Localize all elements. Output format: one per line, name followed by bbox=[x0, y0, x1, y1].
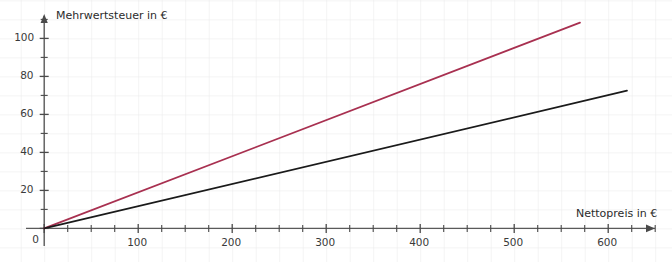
y-tick-label: 80 bbox=[20, 69, 33, 81]
y-axis-title: Mehrwertsteuer in € bbox=[56, 9, 167, 22]
line-chart bbox=[0, 0, 672, 262]
y-tick-label: 40 bbox=[20, 145, 33, 157]
x-tick-label: 200 bbox=[221, 236, 241, 248]
x-axis-title: Nettopreis in € bbox=[576, 207, 657, 220]
x-tick-label: 400 bbox=[409, 236, 429, 248]
x-tick-label: 100 bbox=[127, 236, 147, 248]
y-tick-label: 60 bbox=[20, 107, 33, 119]
y-tick-label: 20 bbox=[20, 183, 33, 195]
origin-label: 0 bbox=[32, 233, 39, 245]
grid-background bbox=[0, 0, 672, 262]
x-tick-label: 500 bbox=[503, 236, 523, 248]
x-tick-label: 600 bbox=[597, 236, 617, 248]
y-tick-label: 100 bbox=[14, 31, 34, 43]
x-tick-label: 300 bbox=[315, 236, 335, 248]
chart-canvas: Mehrwertsteuer in € Nettopreis in € 1002… bbox=[0, 0, 672, 262]
